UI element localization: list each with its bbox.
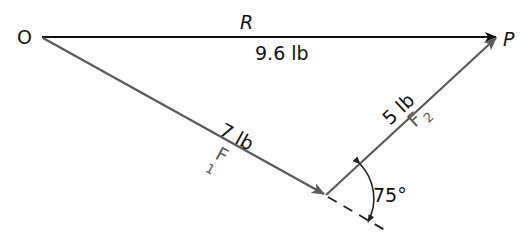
origin-point: O bbox=[17, 26, 32, 48]
force-f1-name-group: F 1 bbox=[203, 141, 232, 180]
angle-label: 75° bbox=[373, 184, 407, 206]
force-vector-diagram: O R 9.6 lb P 7 lb F 1 5 lb F 2 75° bbox=[0, 0, 520, 245]
resultant-label: R bbox=[240, 11, 253, 33]
endpoint-label: P bbox=[503, 28, 515, 50]
resultant-magnitude: 9.6 lb bbox=[255, 42, 309, 64]
force-f2-name: F bbox=[403, 107, 426, 131]
origin-label: O bbox=[17, 26, 32, 48]
angle-arc bbox=[360, 164, 374, 222]
force-f1-subscript: 1 bbox=[203, 161, 218, 178]
